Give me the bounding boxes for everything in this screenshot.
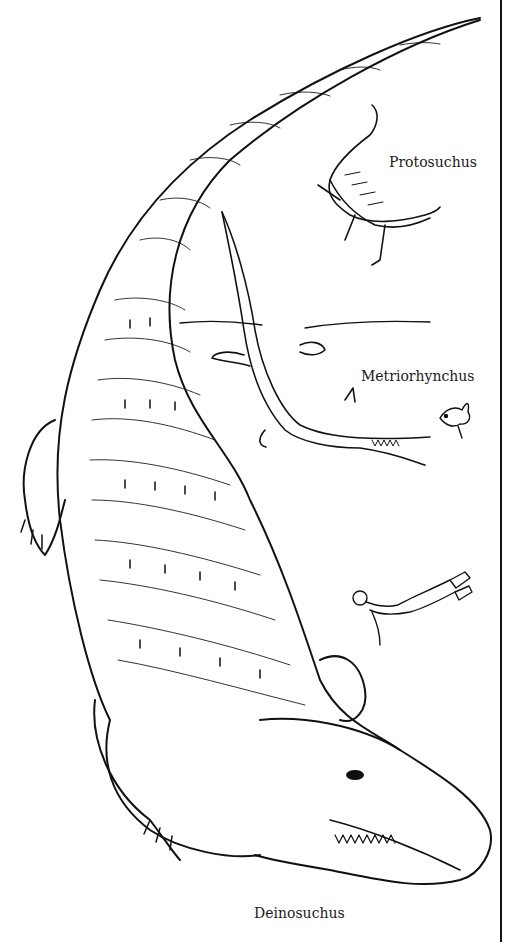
fish-drawing: [440, 404, 470, 439]
page-right-border: [500, 0, 502, 942]
deinosuchus-label: Deinosuchus: [254, 905, 345, 921]
crocodilian-line-art: [0, 0, 507, 942]
protosuchus-label: Protosuchus: [389, 154, 477, 170]
metriorhynchus-label: Metriorhynchus: [361, 368, 475, 384]
deinosuchus-drawing: [21, 18, 491, 884]
metriorhynchus-drawing: [212, 212, 430, 465]
water-surface: [180, 321, 430, 328]
protosuchus-drawing: [318, 105, 440, 265]
illustration-page: Protosuchus Metriorhynchus Deinosuchus: [0, 0, 507, 942]
diver-drawing: [353, 572, 472, 645]
